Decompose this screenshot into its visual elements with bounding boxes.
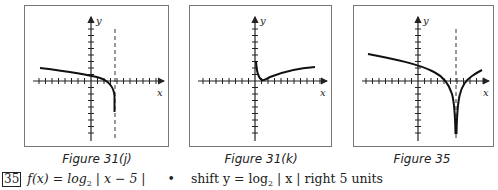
curve — [256, 61, 315, 80]
figure-31j: y x — [24, 5, 169, 147]
x-axis-label: x — [483, 87, 489, 98]
bullet-icon: • — [168, 171, 175, 186]
function-arg: | x − 5 | — [92, 171, 146, 186]
graph-35: y x — [354, 6, 495, 148]
y-axis-label: y — [259, 15, 266, 26]
curve-right-branch — [457, 70, 483, 134]
x-axis-label: x — [320, 87, 326, 98]
caption-31j: Figure 31(j) — [17, 152, 177, 166]
graph-31j: y x — [25, 6, 170, 148]
caption-31k: Figure 31(k) — [181, 152, 341, 166]
curve-left-branch — [368, 54, 456, 134]
function-lhs: f(x) = log — [27, 171, 86, 186]
figure-31k: y x — [189, 5, 332, 147]
y-axis-label: y — [422, 15, 429, 26]
y-axis-label: y — [95, 15, 102, 26]
caption-35: Figure 35 — [342, 152, 498, 166]
description-pre: shift y = log — [191, 171, 268, 186]
x-axis-label: x — [157, 87, 163, 98]
curve — [40, 68, 115, 112]
description-post: | x | right 5 units — [273, 171, 383, 186]
graph-31k: y x — [190, 6, 333, 148]
problem-number: 35 — [2, 172, 21, 187]
problem-line: 35f(x) = log2 | x − 5 |•shift y = log2 |… — [2, 171, 383, 188]
figure-35: y x — [353, 5, 494, 147]
